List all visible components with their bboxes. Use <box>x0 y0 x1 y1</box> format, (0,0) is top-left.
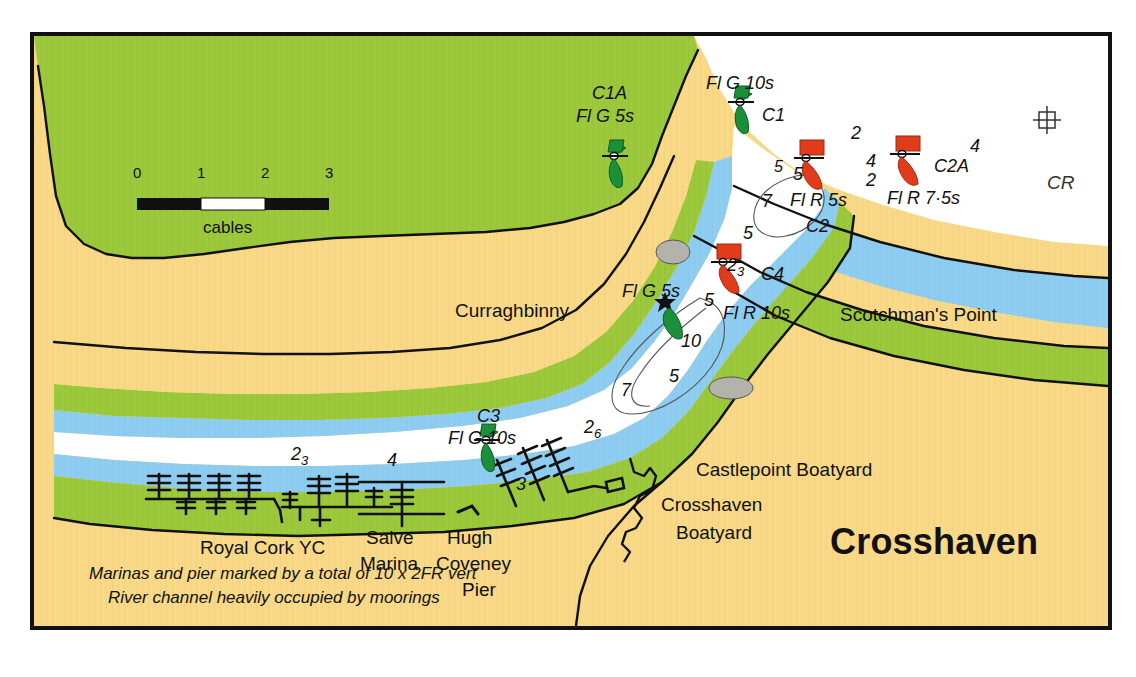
sounding-13: 3 <box>516 474 526 498</box>
chart-frame: 0 1 2 3 cables Curraghbinny Scotchman's … <box>30 32 1112 630</box>
buoy-label-c2-light: Fl R 5s <box>790 190 847 211</box>
sounding-2: 4 <box>970 136 980 160</box>
scale-tick-3: 3 <box>325 164 333 181</box>
sounding-4: 5 <box>793 164 803 188</box>
scale-caption: cables <box>203 218 252 238</box>
scale-tick-0: 0 <box>133 164 141 181</box>
place-royal-cork-yc: Royal Cork YC <box>200 537 325 559</box>
sounding-9: 10 <box>681 331 701 355</box>
buoy-label-c2a-name: C2A <box>934 156 969 177</box>
buoy-label-c3-name: C3 <box>477 406 500 427</box>
chart-note-line1: Marinas and pier marked by a total of 10… <box>89 564 476 584</box>
rock-patch-castlepoint <box>709 377 753 399</box>
buoy-label-c2-name: C2 <box>806 216 829 237</box>
buoy-label-c4-light: Fl R 10s <box>723 303 790 324</box>
place-curraghbinny: Curraghbinny <box>455 300 569 322</box>
place-castlepoint-boatyard: Castlepoint Boatyard <box>696 459 872 481</box>
cr-mark-label: CR <box>1047 172 1074 194</box>
buoy-label-c1a-name: C1A <box>592 83 627 104</box>
sounding-11: 7 <box>621 380 631 404</box>
sounding-6: 5 <box>743 223 753 247</box>
chart-note-line2: River channel heavily occupied by moorin… <box>108 588 440 608</box>
sounding-7: 23 <box>727 255 744 279</box>
buoy-label-c1-light: Fl G 10s <box>706 73 774 94</box>
buoy-label-c3-light: Fl G 10s <box>448 428 516 449</box>
chart-page: 0 1 2 3 cables Curraghbinny Scotchman's … <box>0 0 1136 677</box>
chart-title: Crosshaven <box>830 521 1038 563</box>
beacon-label-light: Fl G 5s <box>622 281 680 302</box>
place-scotchmans-point: Scotchman's Point <box>840 304 997 326</box>
buoy-label-c1a-light: Fl G 5s <box>576 106 634 127</box>
scale-tick-1: 1 <box>197 164 205 181</box>
place-salve-marina-line1: Salve <box>366 527 414 549</box>
rock-patch-curraghbinny <box>656 240 690 264</box>
scale-tick-2: 2 <box>261 164 269 181</box>
buoy-label-c2a-light: Fl R 7·5s <box>887 188 960 209</box>
sounding-14: 23 <box>291 444 308 468</box>
sounding-12: 26 <box>584 417 601 441</box>
sounding-3: 2 <box>866 170 876 194</box>
sounding-8: 5 <box>704 290 714 314</box>
sounding-5: 7 <box>762 191 772 215</box>
sounding-10: 5 <box>669 366 679 390</box>
sounding-0: 2 <box>851 123 861 147</box>
place-crosshaven-boatyard-line2: Boatyard <box>676 522 752 544</box>
buoy-label-c4-name: C4 <box>761 264 784 285</box>
scale-bar <box>137 198 329 210</box>
place-crosshaven-boatyard-line1: Crosshaven <box>661 494 762 516</box>
contour-label-5a: 5 <box>774 158 783 176</box>
place-hugh-coveney-line1: Hugh <box>447 527 492 549</box>
buoy-label-c1-name: C1 <box>762 105 785 126</box>
sounding-15: 4 <box>387 450 397 474</box>
